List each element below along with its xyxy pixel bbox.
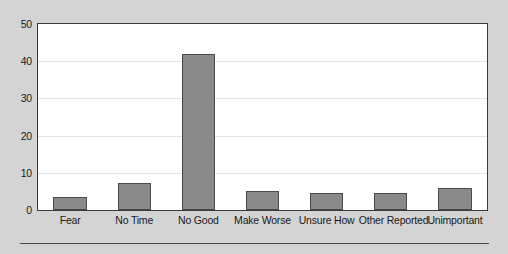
bar-unsure-how[interactable] (310, 193, 343, 210)
bar-unimportant[interactable] (438, 188, 471, 210)
y-tick-label-10: 10 (21, 167, 32, 179)
x-label-make-worse: Make Worse (230, 214, 294, 226)
y-tick-label-30: 30 (21, 92, 32, 104)
bar-slot (310, 24, 343, 210)
x-axis-labels: FearNo TimeNo GoodMake WorseUnsure HowOt… (38, 214, 487, 232)
bar-slot (374, 24, 407, 210)
bar-slot (53, 24, 86, 210)
bar-slot (118, 24, 151, 210)
y-axis: 01020304050 (0, 23, 37, 211)
bar-fear[interactable] (53, 197, 86, 210)
x-label-no-time: No Time (102, 214, 166, 226)
x-label-unsure-how: Unsure How (295, 214, 359, 226)
bar-no-time[interactable] (118, 183, 151, 210)
y-tick-label-0: 0 (26, 204, 32, 216)
bar-slot (182, 24, 215, 210)
x-label-fear: Fear (38, 214, 102, 226)
bar-series (38, 24, 487, 210)
bar-other-reported[interactable] (374, 193, 407, 210)
x-label-no-good: No Good (166, 214, 230, 226)
x-label-unimportant: Unimportant (423, 214, 487, 226)
bar-chart-figure: 01020304050 FearNo TimeNo GoodMake Worse… (0, 0, 508, 254)
y-tick-label-50: 50 (21, 18, 32, 30)
bar-make-worse[interactable] (246, 191, 279, 210)
y-tick-label-40: 40 (21, 55, 32, 67)
y-tick-label-20: 20 (21, 130, 32, 142)
bar-no-good[interactable] (182, 54, 215, 210)
x-label-other-reported: Other Reported (359, 214, 423, 226)
bottom-divider (20, 243, 489, 244)
bar-slot (246, 24, 279, 210)
bar-slot (438, 24, 471, 210)
